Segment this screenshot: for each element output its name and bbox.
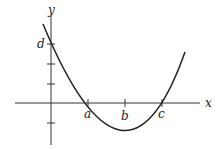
point-label-a: a (84, 107, 91, 121)
point-label-b: b (121, 109, 129, 123)
y-axis-label: y (47, 3, 55, 17)
point-label-c: c (158, 107, 165, 121)
point-label-d: d (37, 37, 45, 51)
x-axis-label: x (205, 96, 212, 110)
parabola-diagram: y x d a b c (0, 0, 222, 149)
